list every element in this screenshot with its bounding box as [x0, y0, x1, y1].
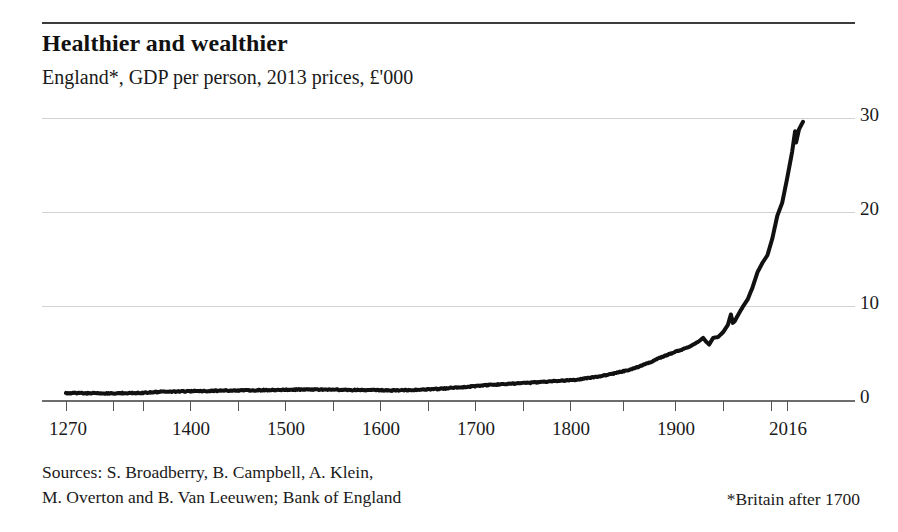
plot-area: 30 20 10 0 [42, 100, 855, 412]
y-tick-label-10: 10 [860, 292, 879, 314]
x-axis-label-1800: 1800 [552, 418, 590, 440]
x-tick-1550 [333, 401, 334, 411]
data-series-gdp-per-person [42, 100, 855, 412]
x-tick-1270 [66, 401, 67, 411]
x-axis-label-1500: 1500 [267, 418, 305, 440]
x-axis-labels: 1270 1400 1500 1600 1700 1800 1900 2016 [0, 418, 898, 446]
sources-line-2: M. Overton and B. Van Leeuwen; Bank of E… [42, 485, 401, 510]
x-tick-1500 [285, 401, 286, 411]
x-axis-label-1700: 1700 [457, 418, 495, 440]
y-tick-label-20: 20 [860, 198, 879, 220]
sources-note: Sources: S. Broadberry, B. Campbell, A. … [42, 460, 401, 510]
y-tick-label-30: 30 [860, 104, 879, 126]
x-axis-label-1400: 1400 [172, 418, 210, 440]
x-tick-1800 [570, 401, 571, 411]
chart-subtitle: England*, GDP per person, 2013 prices, £… [42, 66, 413, 89]
x-axis-label-1600: 1600 [362, 418, 400, 440]
x-axis-ticks [42, 400, 855, 412]
x-tick-1950 [723, 401, 724, 411]
page-title: Healthier and wealthier [42, 30, 288, 57]
x-tick-2016 [787, 401, 788, 411]
x-tick-1850 [623, 401, 624, 411]
x-tick-1320 [113, 401, 114, 411]
x-tick-1650 [428, 401, 429, 411]
x-axis-label-1900: 1900 [657, 418, 695, 440]
x-tick-1600 [380, 401, 381, 411]
x-tick-1450 [238, 401, 239, 411]
top-rule-divider [42, 22, 855, 24]
x-tick-2000 [771, 401, 772, 411]
x-tick-1900 [675, 401, 676, 411]
sources-line-1: Sources: S. Broadberry, B. Campbell, A. … [42, 460, 401, 485]
chart-figure: Healthier and wealthier England*, GDP pe… [0, 0, 898, 532]
x-axis-label-1270: 1270 [49, 418, 87, 440]
x-axis-label-2016: 2016 [769, 418, 807, 440]
x-tick-1750 [523, 401, 524, 411]
footnote-britain-after-1700: *Britain after 1700 [727, 489, 860, 510]
x-tick-1700 [475, 401, 476, 411]
x-tick-1400 [190, 401, 191, 411]
x-tick-1350 [143, 401, 144, 411]
y-tick-label-0: 0 [860, 386, 870, 408]
